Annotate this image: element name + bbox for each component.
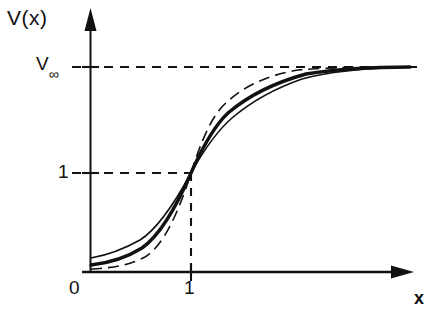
y-tick-label-vinfinity-main: V	[36, 53, 49, 74]
x-tick-label-one: 1	[184, 277, 195, 299]
x-tick-label-zero: 0	[69, 277, 80, 299]
y-tick-label-one: 1	[58, 161, 69, 183]
arrow-up-icon	[85, 8, 97, 31]
curve-thick-solid	[91, 67, 410, 265]
figure-container: V(x) x V∞ 1 0 1	[0, 0, 435, 316]
infinity-icon: ∞	[49, 66, 59, 82]
plot-canvas	[0, 0, 435, 316]
x-axis-label: x	[414, 288, 424, 309]
arrow-right-icon	[391, 266, 414, 279]
y-tick-label-vinfinity: V∞	[36, 53, 59, 78]
y-axis-label: V(x)	[7, 6, 48, 30]
